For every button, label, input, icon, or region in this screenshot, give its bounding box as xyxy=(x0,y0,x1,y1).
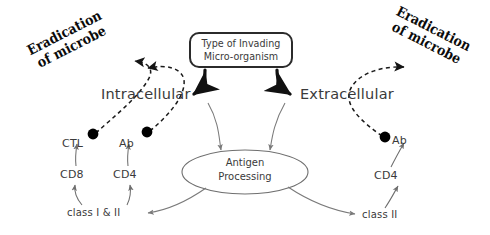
intracellular-label: Intracellular xyxy=(101,86,191,102)
cd8-label: CD8 xyxy=(60,168,84,181)
ab-cell-dot-right xyxy=(380,132,391,143)
cd4-label-left: CD4 xyxy=(113,168,137,181)
cd4-label-right: CD4 xyxy=(374,169,398,182)
ctl-cell-dot xyxy=(88,129,99,140)
invader-box-line1: Type of Invading xyxy=(191,37,291,50)
diagram-canvas: Type of Invading Micro-organism Intracel… xyxy=(0,0,490,235)
invading-microorganism-box: Type of Invading Micro-organism xyxy=(189,32,293,68)
extracellular-label: Extracellular xyxy=(300,86,394,102)
ab-label-right: Ab xyxy=(392,134,407,147)
ab-cell-dot-left xyxy=(142,127,153,138)
antigen-processing-line2: Processing xyxy=(197,170,293,184)
class2-label: class II xyxy=(362,209,398,220)
antigen-processing-label: Antigen Processing xyxy=(197,156,293,184)
class1and2-label: class I & II xyxy=(67,207,120,218)
ctl-label: CTL xyxy=(62,137,83,150)
invader-box-line2: Micro-organism xyxy=(191,50,291,63)
antigen-processing-line1: Antigen xyxy=(197,156,293,170)
ab-label-left: Ab xyxy=(119,137,134,150)
